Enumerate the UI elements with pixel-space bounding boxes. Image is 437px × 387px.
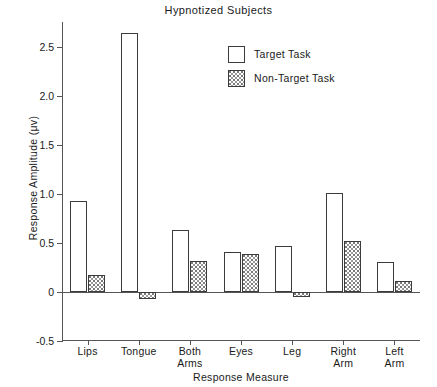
x-axis-label: Response Measure bbox=[62, 371, 420, 383]
bar-nontarget-lips bbox=[88, 275, 105, 292]
y-axis-tick bbox=[57, 47, 63, 48]
y-axis-tick bbox=[57, 194, 63, 195]
bar-target-right-arm bbox=[326, 193, 343, 292]
bar-nontarget-right-arm bbox=[344, 241, 361, 292]
y-axis-tick-label: 1.0 bbox=[8, 189, 54, 199]
y-axis-tick bbox=[57, 96, 63, 97]
bar-nontarget-both-arms bbox=[190, 261, 207, 292]
y-axis-tick-label: 2.0 bbox=[8, 91, 54, 101]
x-axis-category-label: Left Arm bbox=[354, 345, 434, 369]
y-axis-tick bbox=[57, 145, 63, 146]
legend-swatch-non-target-task bbox=[228, 70, 245, 87]
legend-swatch-target-task bbox=[228, 46, 245, 63]
y-axis-tick-labels: 2.52.01.51.00.50-0.5 bbox=[8, 22, 54, 341]
chart-figure: Hypnotized Subjects Response Amplitude (… bbox=[0, 0, 437, 387]
y-axis-tick bbox=[57, 292, 63, 293]
legend-item: Non-Target Task bbox=[228, 66, 398, 90]
bar-nontarget-tongue bbox=[139, 292, 156, 299]
bar-nontarget-leg bbox=[293, 292, 310, 297]
legend-item: Target Task bbox=[228, 42, 398, 66]
y-axis-tick bbox=[57, 243, 63, 244]
chart-title: Hypnotized Subjects bbox=[0, 4, 437, 16]
y-axis-spine bbox=[62, 22, 63, 341]
bar-nontarget-left-arm bbox=[395, 281, 412, 292]
y-axis-tick bbox=[57, 341, 63, 342]
y-axis-tick-label: 0 bbox=[8, 287, 54, 297]
bar-target-left-arm bbox=[377, 262, 394, 292]
bar-target-tongue bbox=[121, 33, 138, 292]
y-axis-tick-label: 1.5 bbox=[8, 140, 54, 150]
y-axis-tick-label: 0.5 bbox=[8, 238, 54, 248]
bar-target-leg bbox=[275, 246, 292, 292]
bar-target-eyes bbox=[224, 252, 241, 292]
bar-nontarget-eyes bbox=[242, 254, 259, 292]
legend-label: Target Task bbox=[254, 48, 311, 60]
bar-target-lips bbox=[70, 201, 87, 292]
bar-target-both-arms bbox=[172, 230, 189, 292]
y-axis-tick-label: 2.5 bbox=[8, 42, 54, 52]
legend: Target TaskNon-Target Task bbox=[228, 42, 398, 90]
legend-label: Non-Target Task bbox=[254, 72, 335, 84]
zero-baseline bbox=[62, 292, 420, 293]
